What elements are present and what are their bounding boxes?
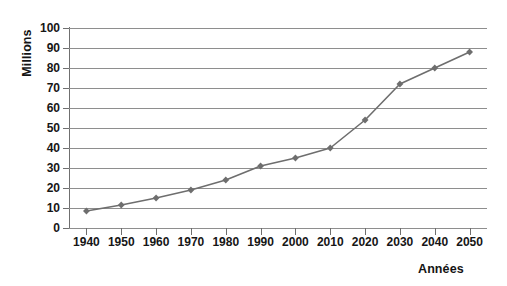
gridline xyxy=(69,68,487,69)
y-axis-tick-label: 70 xyxy=(26,82,60,94)
gridline xyxy=(69,88,487,89)
x-axis-tick xyxy=(191,228,192,235)
x-axis-title: Années xyxy=(418,262,464,276)
y-axis-tick-label: 30 xyxy=(26,162,60,174)
y-axis-tick xyxy=(63,188,69,189)
x-axis-tick xyxy=(295,228,296,235)
gridline xyxy=(69,168,487,169)
gridline xyxy=(69,208,487,209)
y-axis-tick xyxy=(63,128,69,129)
y-axis-tick xyxy=(63,28,69,29)
y-axis-tick xyxy=(63,208,69,209)
gridline xyxy=(69,228,487,229)
plot-area xyxy=(69,28,487,228)
y-axis-tick xyxy=(63,48,69,49)
y-axis-tick xyxy=(63,168,69,169)
y-axis-tick xyxy=(63,228,69,229)
x-axis-tick-label: 2050 xyxy=(448,236,492,248)
x-axis-tick xyxy=(261,228,262,235)
gridline xyxy=(69,108,487,109)
y-axis-tick-label: 100 xyxy=(26,22,60,34)
y-axis-tick xyxy=(63,108,69,109)
gridline xyxy=(69,28,487,29)
x-axis-tick xyxy=(156,228,157,235)
y-axis-tick xyxy=(63,68,69,69)
y-axis-tick xyxy=(63,148,69,149)
y-axis-tick-label: 80 xyxy=(26,62,60,74)
x-axis-tick xyxy=(435,228,436,235)
gridline xyxy=(69,188,487,189)
y-axis-tick xyxy=(63,88,69,89)
y-axis-tick-label: 0 xyxy=(26,222,60,234)
x-axis-tick xyxy=(86,228,87,235)
gridline xyxy=(69,148,487,149)
x-axis-tick xyxy=(470,228,471,235)
gridline xyxy=(69,128,487,129)
x-axis-tick xyxy=(365,228,366,235)
y-axis-tick-label: 90 xyxy=(26,42,60,54)
y-axis-tick-label: 20 xyxy=(26,182,60,194)
line-chart: Millions Années 0102030405060708090100 1… xyxy=(0,0,507,286)
x-axis-tick xyxy=(121,228,122,235)
x-axis-tick xyxy=(226,228,227,235)
y-axis-tick-label: 50 xyxy=(26,122,60,134)
gridline xyxy=(69,48,487,49)
x-axis-tick xyxy=(400,228,401,235)
y-axis-tick-label: 60 xyxy=(26,102,60,114)
x-axis-tick xyxy=(330,228,331,235)
y-axis-tick-label: 40 xyxy=(26,142,60,154)
y-axis-tick-label: 10 xyxy=(26,202,60,214)
